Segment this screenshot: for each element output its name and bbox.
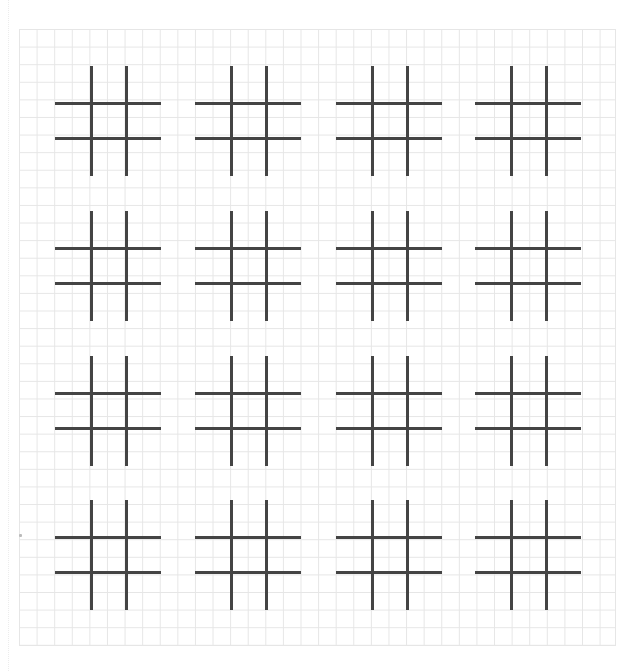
board-horizontal-line-bottom — [55, 282, 161, 285]
tic-tac-toe-board-r1-c4 — [475, 66, 581, 176]
board-horizontal-line-top — [475, 392, 581, 395]
board-horizontal-line-bottom — [475, 571, 581, 574]
board-horizontal-line-bottom — [55, 427, 161, 430]
tic-tac-toe-board-r1-c3 — [336, 66, 442, 176]
board-vertical-line-left — [371, 66, 374, 176]
board-horizontal-line-bottom — [195, 571, 301, 574]
board-horizontal-line-top — [336, 536, 442, 539]
board-vertical-line-right — [545, 500, 548, 610]
board-vertical-line-right — [265, 66, 268, 176]
board-horizontal-line-bottom — [336, 282, 442, 285]
tic-tac-toe-board-r4-c4 — [475, 500, 581, 610]
board-horizontal-line-bottom — [336, 427, 442, 430]
tic-tac-toe-board-r1-c2 — [195, 66, 301, 176]
board-horizontal-line-bottom — [55, 137, 161, 140]
board-vertical-line-right — [125, 500, 128, 610]
board-horizontal-line-bottom — [195, 282, 301, 285]
tic-tac-toe-board-r1-c1 — [55, 66, 161, 176]
tic-tac-toe-board-r2-c1 — [55, 211, 161, 321]
board-horizontal-line-bottom — [475, 137, 581, 140]
board-vertical-line-left — [371, 356, 374, 466]
board-vertical-line-left — [230, 66, 233, 176]
board-vertical-line-right — [406, 356, 409, 466]
board-horizontal-line-top — [336, 392, 442, 395]
board-vertical-line-left — [230, 500, 233, 610]
board-vertical-line-left — [90, 66, 93, 176]
board-vertical-line-right — [545, 211, 548, 321]
tic-tac-toe-board-r3-c3 — [336, 356, 442, 466]
board-vertical-line-left — [230, 211, 233, 321]
board-vertical-line-left — [90, 211, 93, 321]
tic-tac-toe-board-r3-c2 — [195, 356, 301, 466]
board-vertical-line-right — [545, 356, 548, 466]
board-horizontal-line-bottom — [336, 137, 442, 140]
board-horizontal-line-bottom — [475, 427, 581, 430]
board-horizontal-line-bottom — [336, 571, 442, 574]
board-horizontal-line-top — [475, 536, 581, 539]
board-horizontal-line-bottom — [195, 427, 301, 430]
board-vertical-line-right — [265, 356, 268, 466]
board-vertical-line-right — [125, 211, 128, 321]
board-vertical-line-left — [371, 500, 374, 610]
board-vertical-line-left — [371, 211, 374, 321]
board-vertical-line-right — [265, 500, 268, 610]
tic-tac-toe-board-r4-c1 — [55, 500, 161, 610]
board-vertical-line-right — [406, 66, 409, 176]
board-horizontal-line-top — [55, 102, 161, 105]
board-horizontal-line-top — [195, 102, 301, 105]
board-vertical-line-right — [406, 500, 409, 610]
board-horizontal-line-top — [336, 247, 442, 250]
tic-tac-toe-board-r2-c3 — [336, 211, 442, 321]
board-vertical-line-left — [90, 500, 93, 610]
tic-tac-toe-board-r2-c4 — [475, 211, 581, 321]
tic-tac-toe-board-r2-c2 — [195, 211, 301, 321]
board-vertical-line-right — [125, 356, 128, 466]
board-horizontal-line-top — [55, 247, 161, 250]
stray-pencil-mark — [19, 534, 22, 537]
board-horizontal-line-top — [55, 536, 161, 539]
board-horizontal-line-bottom — [475, 282, 581, 285]
tic-tac-toe-board-r4-c2 — [195, 500, 301, 610]
board-vertical-line-left — [510, 211, 513, 321]
tic-tac-toe-board-r3-c1 — [55, 356, 161, 466]
board-horizontal-line-bottom — [195, 137, 301, 140]
board-horizontal-line-top — [475, 102, 581, 105]
board-vertical-line-left — [230, 356, 233, 466]
board-horizontal-line-top — [195, 247, 301, 250]
board-horizontal-line-top — [475, 247, 581, 250]
board-vertical-line-right — [265, 211, 268, 321]
board-horizontal-line-top — [195, 392, 301, 395]
board-vertical-line-right — [406, 211, 409, 321]
board-vertical-line-right — [545, 66, 548, 176]
board-horizontal-line-top — [195, 536, 301, 539]
board-vertical-line-left — [90, 356, 93, 466]
board-horizontal-line-top — [336, 102, 442, 105]
board-horizontal-line-bottom — [55, 571, 161, 574]
board-vertical-line-right — [125, 66, 128, 176]
tic-tac-toe-board-r4-c3 — [336, 500, 442, 610]
board-vertical-line-left — [510, 500, 513, 610]
board-vertical-line-left — [510, 66, 513, 176]
board-vertical-line-left — [510, 356, 513, 466]
board-horizontal-line-top — [55, 392, 161, 395]
tic-tac-toe-board-r3-c4 — [475, 356, 581, 466]
page-edge-dotted-line — [8, 0, 9, 671]
